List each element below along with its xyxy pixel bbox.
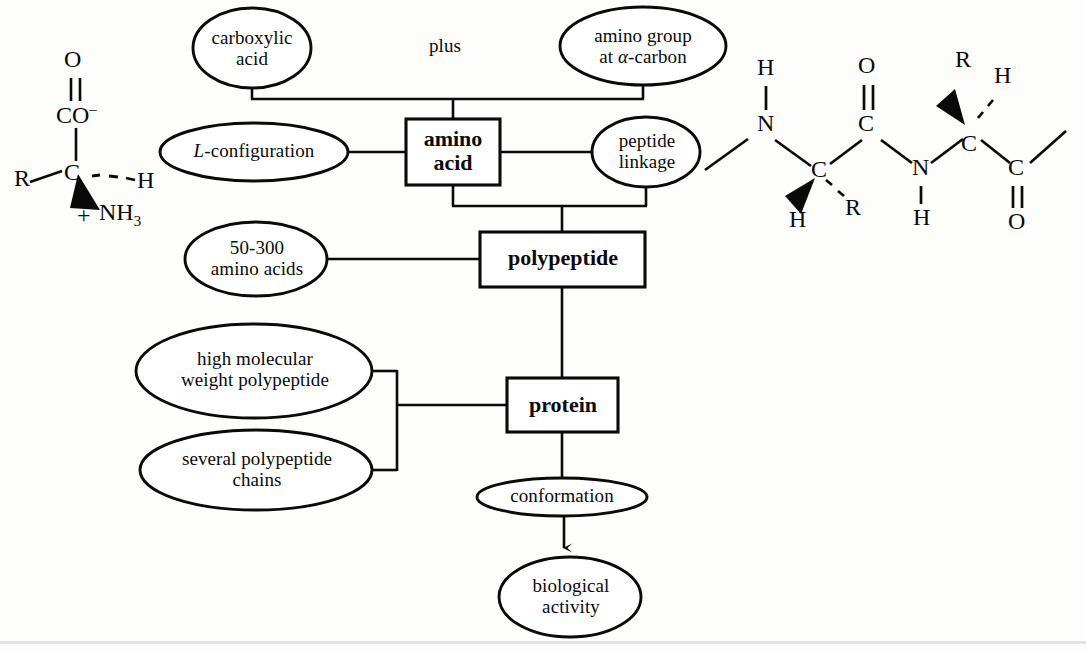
amino-acid-wedge-nh3 — [70, 174, 100, 210]
node-protein-box — [507, 378, 618, 432]
node-amino-acid-box — [406, 119, 500, 185]
peptide-chain-bonds — [705, 85, 1066, 208]
node-carboxylic-acid — [193, 8, 311, 88]
amino-acid-formula-bonds — [30, 78, 135, 182]
node-amino-group — [560, 7, 726, 85]
node-l-configuration — [160, 123, 348, 181]
scan-artifact-strip — [0, 641, 1086, 644]
node-peptide-linkage — [592, 117, 700, 187]
diagram-canvas: plus carboxylic acid amino group at α-ca… — [0, 0, 1086, 652]
node-50-300-amino-acids — [185, 222, 327, 296]
peptide-wedge-h-residue1 — [785, 178, 815, 214]
peptide-wedge-r-residue2 — [936, 89, 965, 125]
node-several-polypeptide-chains — [140, 430, 372, 510]
node-biological-activity — [499, 557, 641, 637]
node-conformation — [477, 478, 647, 516]
node-high-mw-polypeptide — [136, 324, 372, 418]
diagram-vector-layer — [0, 0, 1086, 652]
node-polypeptide-box — [480, 232, 645, 287]
